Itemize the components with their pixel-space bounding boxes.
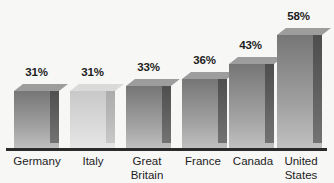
category-label-great-britain: Great Britain bbox=[118, 154, 176, 182]
bar-side-face bbox=[313, 28, 322, 143]
bar-side-face bbox=[106, 84, 115, 143]
bar-top-face bbox=[14, 84, 68, 91]
value-label-great-britain: 33% bbox=[126, 61, 171, 73]
bar-chart: 31% 31% 33% 36% 43% 58% Germany Italy Gr… bbox=[0, 0, 334, 183]
bar-united-states[interactable] bbox=[277, 28, 322, 150]
value-label-germany: 31% bbox=[14, 66, 59, 78]
bar-germany[interactable] bbox=[14, 84, 59, 150]
bar-italy[interactable] bbox=[70, 84, 115, 150]
bar-canada[interactable] bbox=[229, 57, 274, 150]
bar-top-face bbox=[70, 84, 124, 91]
bar-side-face bbox=[265, 57, 274, 143]
bar-france[interactable] bbox=[182, 72, 227, 150]
bar-great-britain[interactable] bbox=[126, 79, 171, 150]
bar-top-face bbox=[229, 57, 283, 64]
plot-area: 31% 31% 33% 36% 43% 58% bbox=[0, 0, 334, 150]
bar-side-face bbox=[50, 84, 59, 143]
category-label-germany: Germany bbox=[6, 154, 68, 168]
bar-side-face bbox=[162, 79, 171, 143]
value-label-france: 36% bbox=[182, 54, 227, 66]
bar-top-face bbox=[182, 72, 236, 79]
value-label-italy: 31% bbox=[70, 66, 115, 78]
value-label-united-states: 58% bbox=[276, 10, 321, 22]
category-label-italy: Italy bbox=[64, 154, 122, 168]
bar-top-face bbox=[277, 28, 331, 35]
value-label-canada: 43% bbox=[228, 39, 273, 51]
bar-side-face bbox=[218, 72, 227, 143]
axis-baseline bbox=[6, 148, 327, 151]
category-label-united-states: United States bbox=[272, 154, 330, 182]
bar-top-face bbox=[126, 79, 180, 86]
